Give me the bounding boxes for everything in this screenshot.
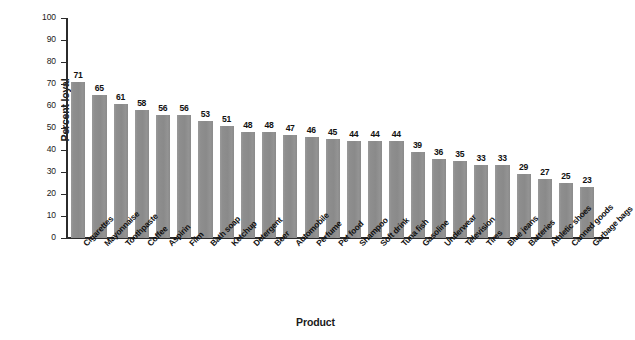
bar-item[interactable]: 44 (386, 18, 407, 238)
bar-item[interactable]: 45 (323, 18, 344, 238)
bar-value-label: 44 (384, 129, 408, 139)
bar-item[interactable]: 53 (195, 18, 216, 238)
y-axis-tick-label: 90 (47, 34, 56, 44)
y-axis-tick-label: 100 (42, 12, 56, 22)
y-axis-tick-label: 70 (47, 78, 56, 88)
bar-item[interactable]: 65 (89, 18, 110, 238)
bar-item[interactable]: 56 (174, 18, 195, 238)
bar[interactable] (71, 82, 85, 238)
bar-item[interactable]: 33 (471, 18, 492, 238)
bar-item[interactable]: 25 (556, 18, 577, 238)
bar[interactable] (177, 115, 191, 238)
y-axis-tick-label: 0 (51, 232, 56, 242)
bar-item[interactable]: 61 (110, 18, 131, 238)
bar-item[interactable]: 47 (280, 18, 301, 238)
bar-item[interactable]: 48 (238, 18, 259, 238)
bar-item[interactable]: 29 (513, 18, 534, 238)
bar[interactable] (283, 135, 297, 238)
bar-value-label: 71 (66, 70, 90, 80)
bar[interactable] (198, 121, 212, 238)
y-axis-tick-label: 60 (47, 100, 56, 110)
y-axis-tick-label: 30 (47, 166, 56, 176)
bar-item[interactable]: 46 (301, 18, 322, 238)
bar-item[interactable]: 56 (153, 18, 174, 238)
bar-item[interactable]: 33 (492, 18, 513, 238)
bar-item[interactable]: 48 (259, 18, 280, 238)
bar-item[interactable]: 58 (132, 18, 153, 238)
x-axis-title: Product (0, 316, 631, 328)
y-axis-tick-label: 80 (47, 56, 56, 66)
bar-item[interactable]: 71 (68, 18, 89, 238)
bar-item[interactable]: 44 (344, 18, 365, 238)
bar-item[interactable]: 35 (450, 18, 471, 238)
bar-item[interactable]: 36 (429, 18, 450, 238)
bar-item[interactable]: 27 (535, 18, 556, 238)
y-axis-tick-label: 50 (47, 122, 56, 132)
bar-series: 7165615856565351484847464544444439363533… (66, 18, 609, 238)
bar-item[interactable]: 44 (365, 18, 386, 238)
bar-item[interactable]: 51 (216, 18, 237, 238)
y-axis-tick-label: 10 (47, 210, 56, 220)
y-axis-tick-label: 40 (47, 144, 56, 154)
bar-item[interactable]: 39 (407, 18, 428, 238)
y-axis-tick-label: 20 (47, 188, 56, 198)
bar-value-label: 23 (575, 175, 599, 185)
